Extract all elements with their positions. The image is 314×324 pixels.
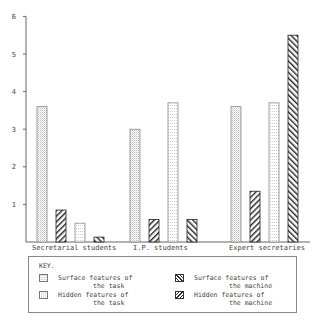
hatched-swatch-icon	[175, 291, 184, 299]
dotted-swatch-icon	[39, 274, 48, 282]
x-category-label: Secretarial students	[32, 244, 116, 252]
bar	[75, 223, 85, 242]
y-tick-label: 6	[12, 13, 16, 21]
x-category-label: I.P. students	[133, 244, 188, 252]
dotted-swatch-icon	[39, 291, 48, 299]
y-tick-label: 2	[12, 163, 16, 171]
x-category-label: Expert secretaries	[229, 244, 305, 252]
axes: 123456	[12, 13, 310, 242]
y-tick-label: 4	[12, 88, 16, 96]
bar	[149, 219, 159, 242]
legend-item-hidden-machine: Hidden features ofthe machine	[175, 291, 272, 307]
legend-label-2: the task	[58, 299, 124, 307]
bars	[37, 35, 298, 242]
bar	[94, 237, 104, 242]
bar	[250, 191, 260, 242]
bar	[56, 210, 66, 242]
y-tick-label: 3	[12, 126, 16, 134]
legend-item-surface-task: Surface features ofthe task	[39, 274, 132, 290]
legend-label-2: the task	[58, 282, 124, 290]
legend-label: Surface features of	[58, 274, 132, 282]
bar	[130, 129, 140, 242]
hatched-swatch-icon	[175, 274, 184, 282]
legend-item-surface-machine: Surface features ofthe machine	[175, 274, 272, 290]
legend-title: KEY.	[39, 262, 55, 270]
legend-label-2: the machine	[194, 282, 272, 290]
bar	[187, 219, 197, 242]
bar	[168, 103, 178, 242]
bar	[288, 35, 298, 242]
bar	[37, 107, 47, 242]
bar	[269, 103, 279, 242]
legend-item-hidden-task: Hidden features ofthe task	[39, 291, 128, 307]
legend: KEY. Surface features ofthe task Hidden …	[28, 256, 297, 313]
x-axis-labels: Secretarial studentsI.P. studentsExpert …	[32, 244, 305, 252]
legend-label: Hidden features of	[194, 291, 264, 299]
bar-chart: 123456 Secretarial studentsI.P. students…	[0, 0, 314, 256]
y-tick-label: 1	[12, 201, 16, 209]
legend-label: Hidden features of	[58, 291, 128, 299]
y-tick-label: 5	[12, 51, 16, 59]
bar	[231, 107, 241, 242]
legend-label-2: the machine	[194, 299, 272, 307]
legend-label: Surface features of	[194, 274, 268, 282]
